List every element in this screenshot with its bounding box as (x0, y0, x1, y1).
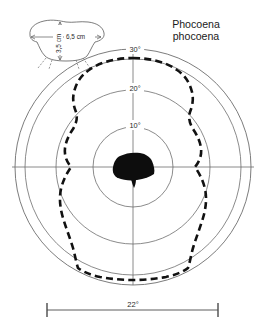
inset-height-label: 3,5 cm (55, 34, 62, 53)
head-silhouette-tail (131, 179, 136, 188)
inset-leader-lines (38, 58, 90, 69)
head-silhouette (113, 153, 155, 188)
ring-label-30: 30° (129, 45, 140, 54)
head-silhouette-shape (113, 153, 155, 181)
head-outline-inset: 6,5 cm 3,5 cm (30, 20, 104, 69)
beam-pattern-figure: 6,5 cm 3,5 cm Phocoena phocoena (0, 0, 265, 331)
scale-bar: 22° (47, 298, 218, 317)
species-epithet: phocoena (173, 30, 220, 42)
ring-label-10: 10° (129, 121, 140, 130)
inset-width-label: 6,5 cm (66, 33, 85, 40)
species-name: Phocoena phocoena (172, 18, 220, 42)
ring-label-20: 20° (129, 84, 140, 93)
figure-root: 6,5 cm 3,5 cm Phocoena phocoena (0, 0, 265, 331)
species-genus: Phocoena (172, 18, 220, 30)
scale-bar-label: 22° (127, 300, 138, 309)
